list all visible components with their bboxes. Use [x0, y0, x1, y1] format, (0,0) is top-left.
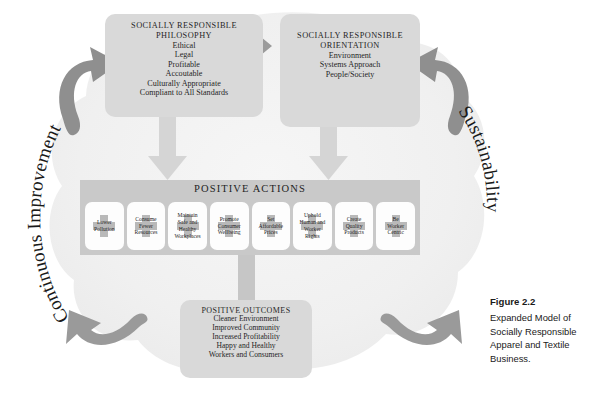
figure-canvas: Continuous Improvement Sustainability SO… — [0, 0, 601, 396]
action-line: Quality — [344, 223, 364, 230]
philosophy-item-list: Ethical Legal Profitable Accoutable Cult… — [105, 41, 263, 98]
box-positive-outcomes: POSITIVE OUTCOMES Cleaner Environment Im… — [180, 300, 312, 378]
action-line: Create — [344, 216, 364, 223]
action-line: Centric — [387, 229, 404, 236]
action-line: Uphold — [299, 212, 325, 219]
outcome-item: Workers and Consumers — [180, 351, 312, 360]
action-item-label: Uphold Human and Worker Rights — [298, 212, 326, 239]
action-item: Uphold Human and Worker Rights — [293, 202, 332, 250]
action-line: Pollution — [94, 226, 115, 233]
action-item-label: Lower Pollution — [93, 219, 116, 233]
orientation-title: SOCIALLY RESPONSIBLE ORIENTATION — [280, 31, 420, 51]
box-socially-responsible-philosophy: SOCIALLY RESPONSIBLE PHILOSOPHY Ethical … — [105, 14, 263, 117]
action-line: Consume — [134, 216, 157, 223]
action-line: Healthy — [174, 226, 200, 233]
action-item-label: Create Quality Products — [343, 216, 365, 236]
philosophy-item: Accoutable — [105, 69, 263, 79]
action-item: Be Worker Centric — [376, 202, 415, 250]
action-line: Rights — [299, 233, 325, 240]
philosophy-title: SOCIALLY RESPONSIBLE PHILOSOPHY — [105, 21, 263, 41]
action-line: Maintain — [174, 212, 200, 219]
action-item: Lower Pollution — [85, 202, 124, 250]
action-line: Human and — [299, 219, 325, 226]
action-line: Lower — [94, 219, 115, 226]
figure-caption-text: Expanded Model of Socially Responsible A… — [490, 311, 598, 366]
philosophy-item: Profitable — [105, 60, 263, 70]
action-item-label: Maintain Safe and Healthy Workplaces — [173, 212, 201, 239]
action-line: Worker — [387, 223, 404, 230]
action-item: Set Affordable Prices — [252, 202, 291, 250]
philosophy-item: Legal — [105, 50, 263, 60]
action-item-label: Set Affordable Prices — [258, 216, 284, 236]
action-item: Consume Fewer Resources — [127, 202, 166, 250]
action-line: Promote — [218, 216, 241, 223]
action-item: Create Quality Products — [335, 202, 374, 250]
action-line: Be — [387, 216, 404, 223]
action-line: Affordable — [259, 223, 283, 230]
philosophy-item: Culturally Appropriate — [105, 79, 263, 89]
philosophy-item: Ethical — [105, 41, 263, 51]
action-line: Fewer — [134, 223, 157, 230]
band-positive-actions: POSITIVE ACTIONS Lower Pollution Consume… — [80, 180, 420, 255]
action-line: Consumer — [218, 223, 241, 230]
action-line: Workplaces — [174, 233, 200, 240]
action-item-label: Be Worker Centric — [386, 216, 405, 236]
action-item-label: Consume Fewer Resources — [133, 216, 158, 236]
orientation-item-list: Environment Systems Approach People/Soci… — [280, 51, 420, 80]
action-line: Worker — [299, 226, 325, 233]
action-item: Promote Consumer Wellbeing — [210, 202, 249, 250]
positive-actions-title: POSITIVE ACTIONS — [80, 183, 420, 194]
action-item: Maintain Safe and Healthy Workplaces — [168, 202, 207, 250]
orientation-item: People/Society — [280, 70, 420, 80]
figure-number: Figure 2.2 — [490, 296, 598, 307]
action-line: Safe and — [174, 219, 200, 226]
action-line: Set — [259, 216, 283, 223]
action-line: Products — [344, 229, 364, 236]
action-line: Wellbeing — [218, 229, 241, 236]
outcomes-item-list: Cleaner Environment Improved Community I… — [180, 315, 312, 360]
action-line: Resources — [134, 229, 157, 236]
philosophy-item: Compliant to All Standards — [105, 88, 263, 98]
positive-actions-row: Lower Pollution Consume Fewer Resources … — [85, 202, 415, 250]
action-item-label: Promote Consumer Wellbeing — [217, 216, 242, 236]
orientation-item: Environment — [280, 51, 420, 61]
orientation-item: Systems Approach — [280, 60, 420, 70]
action-line: Prices — [259, 229, 283, 236]
box-socially-responsible-orientation: SOCIALLY RESPONSIBLE ORIENTATION Environ… — [280, 14, 420, 127]
figure-caption: Figure 2.2 Expanded Model of Socially Re… — [490, 296, 598, 366]
